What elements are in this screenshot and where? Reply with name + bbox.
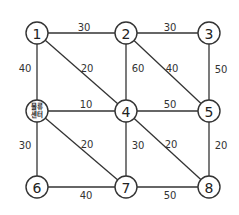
- node-label: 6: [33, 180, 42, 196]
- edge-weight-label: 20: [165, 139, 178, 150]
- edge-weight-label: 20: [81, 139, 94, 150]
- node-label: 5: [205, 104, 214, 120]
- edge-weight-label: 40: [19, 63, 32, 74]
- node-6: 6: [26, 176, 48, 198]
- edge-weight-label: 40: [80, 190, 93, 201]
- edge-weight-label: 20: [215, 140, 228, 151]
- edge-weight-label: 50: [164, 99, 177, 110]
- node-label: 8: [205, 180, 214, 196]
- edge-weight-label: 20: [81, 63, 94, 74]
- node-3: 3: [198, 22, 220, 44]
- node-label: 물류: [31, 102, 43, 111]
- edge-weight-label: 30: [78, 22, 91, 33]
- node-label: 7: [122, 180, 131, 196]
- edge-weight-label: 30: [19, 140, 32, 151]
- edge-weight-label: 10: [80, 99, 93, 110]
- node-2: 2: [115, 22, 137, 44]
- node-label: 2: [122, 26, 131, 42]
- node-7: 7: [115, 176, 137, 198]
- node-label: 4: [122, 104, 131, 120]
- node-8: 8: [198, 176, 220, 198]
- node-4: 4: [115, 100, 137, 122]
- edge-weight-label: 40: [166, 63, 179, 74]
- edge-weight-label: 30: [132, 140, 145, 151]
- node-label: 1: [33, 26, 42, 42]
- node-5: 5: [198, 100, 220, 122]
- edge-weight-label: 50: [215, 64, 228, 75]
- node-1: 1: [26, 22, 48, 44]
- weighted-graph-diagram: 30304020604050105030203020204050 123물류센터…: [0, 0, 239, 215]
- edge-weight-label: 50: [164, 190, 177, 201]
- node-label: 센터: [31, 110, 43, 119]
- edge-weight-label: 30: [164, 22, 177, 33]
- node-label: 3: [205, 26, 214, 42]
- edge-weight-label: 60: [132, 63, 145, 74]
- node-logistics-center: 물류센터: [26, 100, 48, 122]
